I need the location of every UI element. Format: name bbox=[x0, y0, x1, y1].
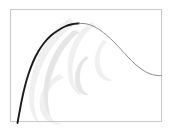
figure-root bbox=[0, 0, 173, 130]
plot-frame bbox=[10, 9, 162, 122]
